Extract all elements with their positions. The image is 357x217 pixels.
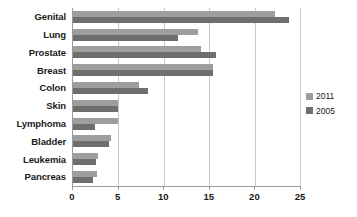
bar-group bbox=[73, 8, 300, 26]
bar-2005 bbox=[73, 70, 213, 76]
bar-group bbox=[73, 26, 300, 44]
category-label: Bladder bbox=[0, 133, 70, 151]
bar-groups bbox=[73, 8, 300, 186]
bar-2005 bbox=[73, 141, 109, 147]
bar-2005 bbox=[73, 106, 118, 112]
category-label: Genital bbox=[0, 8, 70, 26]
x-tick-label: 25 bbox=[295, 192, 306, 202]
bar-2005 bbox=[73, 177, 93, 183]
plot-area bbox=[72, 8, 300, 186]
category-label: Lung bbox=[0, 26, 70, 44]
bar-2005 bbox=[73, 124, 95, 130]
x-tick bbox=[209, 186, 210, 190]
x-tick bbox=[254, 186, 255, 190]
bar-2005 bbox=[73, 52, 216, 58]
x-tick bbox=[118, 186, 119, 190]
x-tick-label: 10 bbox=[158, 192, 169, 202]
x-tick bbox=[163, 186, 164, 190]
legend-item[interactable]: 2011 bbox=[306, 92, 335, 101]
bar-group bbox=[73, 150, 300, 168]
bar-group bbox=[73, 97, 300, 115]
x-tick-label: 20 bbox=[249, 192, 260, 202]
bar-group bbox=[73, 79, 300, 97]
bar-2005 bbox=[73, 17, 289, 23]
plot-right-edge bbox=[300, 8, 301, 186]
bar-2005 bbox=[73, 159, 96, 165]
x-tick bbox=[300, 186, 301, 190]
x-tick-label: 5 bbox=[115, 192, 120, 202]
category-label: Skin bbox=[0, 97, 70, 115]
bar-group bbox=[73, 44, 300, 62]
x-tick bbox=[72, 186, 73, 190]
x-axis-line bbox=[72, 186, 300, 187]
x-tick-label: 0 bbox=[69, 192, 74, 202]
bar-group bbox=[73, 168, 300, 186]
bar-group bbox=[73, 133, 300, 151]
legend-label: 2011 bbox=[316, 92, 334, 101]
bar-2005 bbox=[73, 88, 148, 94]
x-tick-label: 15 bbox=[204, 192, 215, 202]
category-label: Prostate bbox=[0, 44, 70, 62]
legend-swatch-icon bbox=[306, 107, 313, 114]
category-label: Pancreas bbox=[0, 168, 70, 186]
bar-2005 bbox=[73, 35, 178, 41]
category-label: Lymphoma bbox=[0, 115, 70, 133]
legend: 20112005 bbox=[306, 92, 335, 115]
bar-group bbox=[73, 115, 300, 133]
category-label: Leukemia bbox=[0, 150, 70, 168]
legend-item[interactable]: 2005 bbox=[306, 107, 335, 116]
category-axis-labels: GenitalLungProstateBreastColonSkinLympho… bbox=[0, 8, 70, 186]
legend-swatch-icon bbox=[306, 93, 313, 100]
category-label: Breast bbox=[0, 61, 70, 79]
bar-group bbox=[73, 61, 300, 79]
legend-label: 2005 bbox=[316, 107, 335, 116]
category-label: Colon bbox=[0, 79, 70, 97]
bar-chart: GenitalLungProstateBreastColonSkinLympho… bbox=[0, 0, 357, 217]
